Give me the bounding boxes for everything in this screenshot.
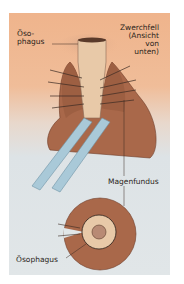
label-text: phagus bbox=[17, 38, 45, 46]
esophagus-opening bbox=[78, 38, 106, 43]
label-gastric-fundus: Magenfundus bbox=[108, 178, 159, 186]
cross-section-lumen bbox=[92, 225, 106, 239]
label-esophagus-top: Öso- phagus bbox=[17, 30, 45, 46]
label-text: unten) bbox=[120, 48, 159, 56]
label-diaphragm: Zwerchfell (Ansicht von unten) bbox=[120, 24, 159, 56]
label-esophagus-bottom: Ösophagus bbox=[16, 256, 58, 264]
